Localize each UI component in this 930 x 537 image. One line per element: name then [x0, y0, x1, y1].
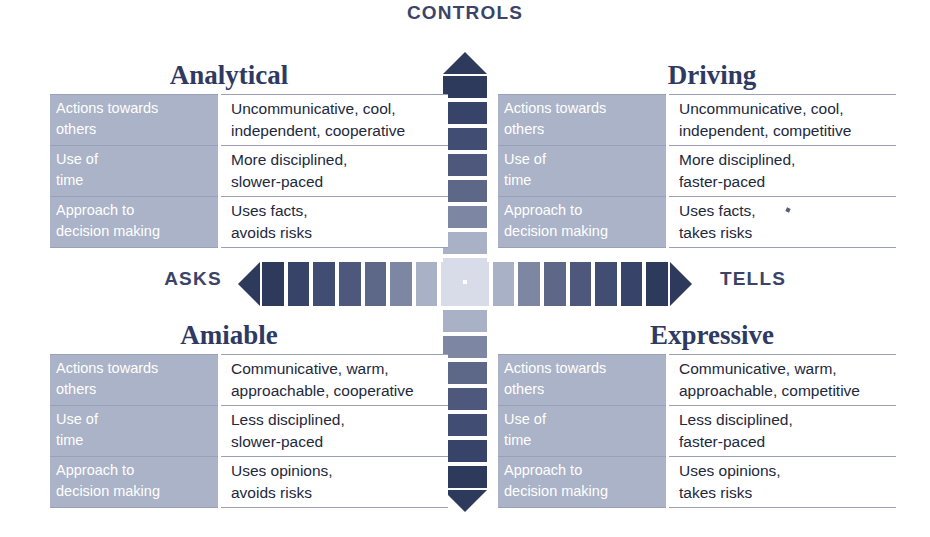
trait-value-line: slower-paced [231, 171, 444, 193]
trait-value-line: faster-paced [679, 171, 892, 193]
trait-value-actions: Uncommunicative, cool, independent, coop… [220, 95, 449, 146]
gradient-segment [390, 262, 412, 306]
trait-label-actions: Actions towards others [498, 355, 668, 406]
quadrant-title-expressive: Expressive [498, 318, 896, 354]
trait-value-line: independent, cooperative [231, 120, 444, 142]
trait-label-line: others [56, 379, 218, 400]
trait-value-line: independent, competitive [679, 120, 892, 142]
trait-label-time: Use of time [50, 406, 220, 457]
trait-table-amiable: Actions towards others Communicative, wa… [50, 354, 448, 508]
trait-value-decisions: Uses facts, takes risks [668, 197, 897, 248]
gradient-segment [443, 128, 487, 150]
table-row: Use of time Less disciplined, slower-pac… [50, 406, 448, 457]
trait-label-line: Use of [56, 149, 218, 170]
gradient-segment [443, 466, 487, 488]
trait-value-actions: Communicative, warm, approachable, coope… [220, 355, 449, 406]
gradient-segment [621, 262, 643, 306]
controls-arrow-icon [443, 52, 487, 74]
trait-value-line: More disciplined, [231, 149, 444, 171]
trait-value-line: Uncommunicative, cool, [231, 98, 444, 120]
trait-label-line: time [56, 430, 218, 451]
quadrant-title-analytical: Analytical [50, 58, 448, 94]
gradient-segment [443, 414, 487, 436]
gradient-segment [646, 262, 668, 306]
gradient-segment [443, 180, 487, 202]
trait-value-line: Communicative, warm, [679, 358, 892, 380]
trait-label-actions: Actions towards others [498, 95, 668, 146]
trait-value-line: More disciplined, [679, 149, 892, 171]
gradient-segment [544, 262, 566, 306]
trait-value-line: Less disciplined, [679, 409, 892, 431]
gradient-segment [443, 206, 487, 228]
diagram-canvas: CONTROLS ASKS TELLS Analytical Actions t… [0, 0, 930, 537]
gradient-segment [313, 262, 335, 306]
gradient-segment [443, 310, 487, 332]
trait-value-line: Uncommunicative, cool, [679, 98, 892, 120]
trait-label-line: Approach to [56, 200, 218, 221]
quadrant-amiable: Amiable Actions towards others Communica… [50, 318, 448, 508]
trait-value-line: takes risks [679, 482, 892, 504]
trait-label-line: decision making [56, 221, 218, 242]
trait-label-line: time [504, 430, 666, 451]
quadrant-analytical: Analytical Actions towards others Uncomm… [50, 58, 448, 248]
trait-label-time: Use of time [498, 146, 668, 197]
table-row: Use of time Less disciplined, faster-pac… [498, 406, 896, 457]
trait-table-expressive: Actions towards others Communicative, wa… [498, 354, 896, 508]
table-row: Approach to decision making Uses facts, … [50, 197, 448, 248]
trait-label-decisions: Approach to decision making [498, 457, 668, 508]
gradient-segment [443, 154, 487, 176]
trait-label-line: Actions towards [56, 358, 218, 379]
trait-value-decisions: Uses opinions, takes risks [668, 457, 897, 508]
gradient-segment [443, 102, 487, 124]
table-row: Actions towards others Uncommunicative, … [50, 95, 448, 146]
trait-value-line: approachable, cooperative [231, 380, 444, 402]
table-row: Actions towards others Communicative, wa… [50, 355, 448, 406]
controls-axis-label: CONTROLS [0, 2, 930, 24]
gradient-segment [416, 262, 438, 306]
tells-axis-label: TELLS [706, 268, 800, 290]
emotes-arrow-icon [443, 490, 487, 512]
trait-value-time: More disciplined, faster-paced [668, 146, 897, 197]
gradient-segment [443, 336, 487, 358]
trait-value-line: slower-paced [231, 431, 444, 453]
gradient-segment [443, 76, 487, 98]
gradient-segment [518, 262, 540, 306]
trait-table-driving: Actions towards others Uncommunicative, … [498, 94, 896, 248]
trait-table-analytical: Actions towards others Uncommunicative, … [50, 94, 448, 248]
trait-label-line: Approach to [504, 460, 666, 481]
gradient-segment [443, 232, 487, 254]
gradient-segment [443, 440, 487, 462]
trait-label-line: decision making [504, 221, 666, 242]
trait-value-time: More disciplined, slower-paced [220, 146, 449, 197]
trait-label-decisions: Approach to decision making [498, 197, 668, 248]
trait-label-line: Actions towards [56, 98, 218, 119]
quadrant-title-driving: Driving [498, 58, 896, 94]
gradient-segment [339, 262, 361, 306]
trait-label-decisions: Approach to decision making [50, 197, 220, 248]
table-row: Approach to decision making Uses facts, … [498, 197, 896, 248]
trait-label-line: Use of [504, 409, 666, 430]
trait-value-line: takes risks [679, 222, 892, 244]
trait-value-line: approachable, competitive [679, 380, 892, 402]
trait-label-line: Actions towards [504, 98, 666, 119]
trait-value-decisions: Uses facts, avoids risks [220, 197, 449, 248]
trait-label-line: others [504, 119, 666, 140]
trait-value-time: Less disciplined, faster-paced [668, 406, 897, 457]
table-row: Approach to decision making Uses opinion… [498, 457, 896, 508]
quadrant-expressive: Expressive Actions towards others Commun… [498, 318, 896, 508]
trait-label-line: Approach to [504, 200, 666, 221]
asks-arrow-icon [238, 262, 260, 306]
trait-label-line: time [504, 170, 666, 191]
gradient-segment [595, 262, 617, 306]
gradient-segment [443, 284, 487, 306]
gradient-segment [443, 362, 487, 384]
quadrant-driving: Driving Actions towards others Uncommuni… [498, 58, 896, 248]
gradient-segment [493, 262, 515, 306]
gradient-segment [262, 262, 284, 306]
gradient-segment [365, 262, 387, 306]
table-row: Actions towards others Communicative, wa… [498, 355, 896, 406]
trait-value-line: avoids risks [231, 222, 444, 244]
trait-label-line: others [504, 379, 666, 400]
controls-emotes-gradient-bar [443, 52, 487, 512]
trait-label-time: Use of time [50, 146, 220, 197]
